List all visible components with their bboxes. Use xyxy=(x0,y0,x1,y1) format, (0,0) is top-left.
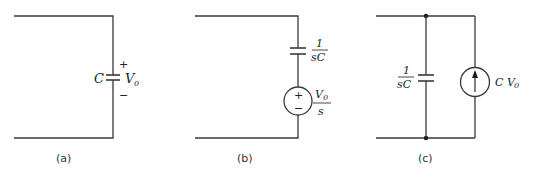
impedance-numerator: 1 xyxy=(403,64,410,77)
wire-a-lower xyxy=(14,80,113,138)
current-label: C V xyxy=(495,76,516,89)
source-plus-sign: + xyxy=(294,89,303,102)
circuit-figure: C + − V 0 (a) + − 1 sC V 0 s (b) xyxy=(0,0,534,173)
panel-c: 1 sC C V 0 (c) xyxy=(376,14,519,165)
panel-b: + − 1 sC V 0 s (b) xyxy=(195,16,331,165)
wire-a xyxy=(14,16,113,75)
panel-a: C + − V 0 (a) xyxy=(14,16,139,165)
source-minus-sign: − xyxy=(294,102,303,115)
plus-sign: + xyxy=(119,58,128,71)
impedance-denominator: sC xyxy=(311,51,326,64)
wire-b-top xyxy=(195,16,298,48)
wire-b-bottom xyxy=(195,115,298,138)
voltage-subscript: 0 xyxy=(134,79,139,88)
minus-sign: − xyxy=(119,89,128,102)
impedance-numerator: 1 xyxy=(316,37,323,50)
source-denominator: s xyxy=(318,105,324,118)
impedance-denominator: sC xyxy=(397,78,412,91)
source-numerator-subscript: 0 xyxy=(323,93,328,102)
caption-c: (c) xyxy=(418,152,433,165)
caption-b: (b) xyxy=(237,152,253,165)
current-subscript: 0 xyxy=(514,81,519,90)
capacitor-label: C xyxy=(94,71,104,86)
caption-a: (a) xyxy=(56,152,71,165)
